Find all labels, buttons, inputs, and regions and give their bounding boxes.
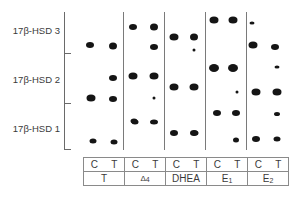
substrate-d4: Δ4: [125, 172, 166, 186]
tlc-spot: [131, 119, 138, 124]
tlc-spot: [170, 84, 179, 91]
tlc-spot: [150, 73, 159, 80]
tlc-spot: [233, 138, 239, 143]
tlc-spot: [213, 110, 221, 116]
tlc-spot: [170, 130, 178, 136]
tlc-spot: [190, 34, 198, 41]
left-axis-line: [64, 12, 65, 150]
tlc-spot: [90, 139, 97, 144]
tlc-spot: [274, 137, 281, 142]
tlc-spot: [250, 22, 255, 25]
row-label-hsd2: 17β-HSD 2: [0, 74, 60, 85]
tlc-spot: [170, 34, 179, 41]
tlc-spot: [87, 95, 96, 102]
lane-separator-2: [164, 12, 165, 150]
row-label-hsd3: 17β-HSD 3: [0, 25, 60, 36]
lane-d4-ct: CT: [125, 158, 166, 172]
tlc-spot: [109, 96, 117, 102]
tlc-spot: [275, 66, 280, 69]
tlc-spot: [228, 64, 238, 72]
legend-ct-row: CT CT CT CT CT: [84, 158, 289, 172]
tlc-spot: [274, 112, 280, 116]
tlc-spot: [150, 120, 158, 125]
tlc-spot: [193, 49, 196, 52]
lane-legend-table: CT CT CT CT CT T Δ4 DHEA E1 E2: [83, 157, 289, 186]
tlc-spot: [150, 44, 158, 50]
tlc-spot: [129, 73, 138, 80]
substrate-e2: E2: [248, 172, 289, 186]
tlc-spot: [153, 97, 156, 100]
substrate-t: T: [84, 172, 125, 186]
lane-separator-3: [205, 12, 206, 150]
tlc-spot: [249, 42, 258, 49]
lane-t-ct: CT: [84, 158, 125, 172]
legend-substrate-row: T Δ4 DHEA E1 E2: [84, 172, 289, 186]
tlc-spot: [209, 64, 219, 72]
tlc-spot: [129, 24, 137, 30]
tlc-spot: [192, 131, 199, 136]
tlc-spot: [109, 43, 117, 50]
lane-e2-ct: CT: [248, 158, 289, 172]
row-label-hsd1: 17β-HSD 1: [0, 123, 60, 134]
tlc-spot: [190, 84, 199, 91]
lane-e1-ct: CT: [207, 158, 248, 172]
lane-dhea-ct: CT: [166, 158, 207, 172]
tlc-spot: [150, 24, 158, 31]
axis-tick-2: [64, 103, 71, 104]
lane-separator-1: [123, 12, 124, 150]
tlc-spot: [232, 110, 240, 116]
tlc-spot: [252, 136, 260, 142]
axis-tick-1: [64, 53, 71, 54]
substrate-e1: E1: [207, 172, 248, 186]
tlc-spot: [252, 89, 261, 96]
tlc-spot: [273, 89, 282, 96]
tlc-spot: [111, 140, 118, 145]
tlc-spot: [229, 17, 238, 24]
tlc-spot: [236, 91, 239, 94]
lane-separator-4: [246, 12, 247, 150]
substrate-dhea: DHEA: [166, 172, 207, 186]
tlc-spot: [210, 17, 219, 24]
tlc-spot: [86, 42, 94, 48]
axis-tick-bottom: [64, 149, 71, 150]
tlc-spot: [109, 75, 117, 81]
tlc-spot: [271, 44, 279, 50]
